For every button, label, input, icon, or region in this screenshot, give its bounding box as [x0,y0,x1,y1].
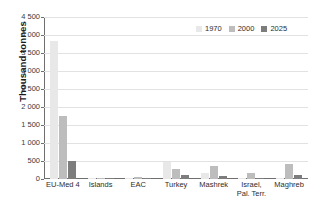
x-tick-label-line: Mashrek [199,180,228,189]
y-tick-label: 4 500 [0,13,40,21]
y-tick-label: 0 [0,175,40,183]
bar-group [119,17,157,179]
x-tick-label-line: Pal. Terr. [233,190,271,199]
bar [285,164,293,179]
x-tick-label-line: EAC [131,180,146,189]
x-tick-label-line: Israel, [241,180,261,189]
bar [219,176,227,179]
x-tick-label-line: Islands [89,180,113,189]
y-tick-mark [41,179,44,180]
y-tick-label: 3 000 [0,67,40,75]
legend: 197020002025 [196,25,287,33]
x-tick-label: EU-Med 4 [44,181,82,198]
bar [276,178,284,179]
bar [97,178,105,179]
y-tick-label: 3 500 [0,49,40,57]
bar-group [195,17,233,179]
bar [210,166,218,179]
x-tick-label: Israel,Pal. Terr. [233,181,271,198]
bar-chart: Thousand tonnes 4 5004 0003 5003 0002 50… [0,0,318,216]
y-tick-label: 1 000 [0,139,40,147]
bar [143,178,151,179]
bar [134,177,142,179]
plot-area [44,17,308,179]
x-tick-label: EAC [119,181,157,198]
legend-item-2025[interactable]: 2025 [261,25,287,33]
bar [163,162,171,179]
legend-item-2000[interactable]: 2000 [229,25,255,33]
y-tick-label: 1 500 [0,121,40,129]
legend-swatch-icon [229,26,235,32]
bar [88,178,96,179]
bar [256,178,264,179]
x-tick-label: Mashrek [195,181,233,198]
x-tick-label-line: Turkey [165,180,188,189]
legend-swatch-icon [261,26,267,32]
bar [125,178,133,179]
legend-label: 2025 [270,25,287,33]
y-tick-label: 4 000 [0,31,40,39]
legend-label: 1970 [205,25,222,33]
bar [50,41,58,179]
bar [59,116,67,179]
x-tick-label: Islands [82,181,120,198]
x-tick-label: Maghreb [270,181,308,198]
y-tick-label: 2 000 [0,103,40,111]
legend-item-1970[interactable]: 1970 [196,25,222,33]
bar [181,175,189,179]
bar [172,169,180,179]
bar-group [82,17,120,179]
bar-group [233,17,271,179]
bar-group [270,17,308,179]
legend-swatch-icon [196,26,202,32]
bar [247,173,255,179]
bar [238,178,246,179]
bar-group [44,17,82,179]
x-tick-label-line: EU-Med 4 [46,180,80,189]
y-tick-label: 500 [0,157,40,165]
legend-label: 2000 [238,25,255,33]
bar-groups [44,17,308,179]
bar-group [157,17,195,179]
bar [106,178,114,179]
y-tick-label: 2 500 [0,85,40,93]
bar [68,161,76,179]
x-axis-tick-labels: EU-Med 4IslandsEACTurkeyMashrekIsrael,Pa… [44,181,308,198]
bar [201,173,209,179]
x-tick-label-line: Maghreb [274,180,304,189]
x-tick-label: Turkey [157,181,195,198]
bar [294,175,302,179]
